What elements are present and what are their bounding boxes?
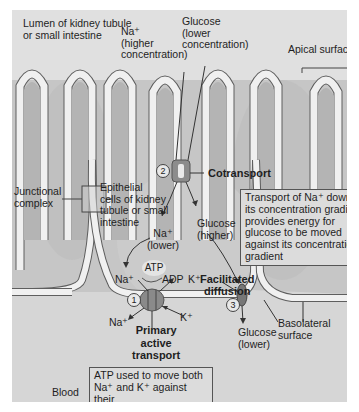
potassium-outside-label: K⁺ [180,312,193,324]
cotransport-note-line: its concentration gradient [245,204,347,216]
junctional-complex-label: Junctional complex [14,186,61,209]
basolateral-line2: surface [278,330,331,342]
glucose-label-line3: concentration) [182,39,249,51]
sodium-lower-label: Na⁺ (lower) [147,228,179,251]
glucose-label-line1: Glucose [182,16,249,28]
sodium-lower-line1: Na⁺ [147,228,179,240]
epithelial-label-line3: tubule or small [100,205,168,217]
glucose-lower-concentration-label: Glucose (lower concentration) [182,16,249,51]
junctional-label-line2: complex [14,198,61,210]
step-2-marker: 2 [156,164,170,178]
sodium-lower-line2: (lower) [147,240,179,252]
epithelial-label-line1: Epithelial [100,182,168,194]
facilitated-diffusion-label: Facilitated diffusion [200,274,254,297]
sodium-inside-label: Na⁺ [115,274,134,286]
sodium-higher-label: Na⁺ (higher concentration) [121,26,188,61]
atp-note-line: Na⁺ and K⁺ against their [94,382,208,402]
adp-label: ADP [162,274,184,286]
lumen-label-line1: Lumen of kidney tubule [23,18,132,30]
primary-line2: active [132,337,180,350]
epithelial-cells-label: Epithelial cells of kidney tubule or sma… [100,182,168,228]
primary-line1: Primary [132,324,180,337]
cotransport-note-box: Transport of Na⁺ down its concentration … [240,189,347,266]
glucose-higher-line1: Glucose [197,218,236,230]
cotransport-label: Cotransport [208,168,271,180]
facilitated-line1: Facilitated [200,274,254,286]
glucose-higher-label: Glucose (higher) [197,218,236,241]
lumen-label-line2: or small intestine [23,30,132,42]
junctional-label-line1: Junctional [14,186,61,198]
glucose-higher-line2: (higher) [197,230,236,242]
glucose-lower-line1: Glucose [238,327,277,339]
lumen-label: Lumen of kidney tubule or small intestin… [23,18,132,41]
primary-active-transport-label: Primary active transport [132,324,180,362]
glucose-lower-label: Glucose (lower) [238,327,277,350]
blood-label: Blood [52,387,79,399]
sodium-outside-label: Na⁺ [109,317,128,329]
apical-surface-label: Apical surface [288,44,347,56]
basolateral-line1: Basolateral [278,318,331,330]
step-3-marker: 3 [226,298,240,312]
cotransport-note-line: gradient [245,251,347,263]
atp-note-box: ATP used to move both Na⁺ and K⁺ against… [89,367,213,402]
epithelial-transport-diagram: Lumen of kidney tubule or small intestin… [12,10,347,402]
primary-line3: transport [132,349,180,362]
sodium-label-line1: Na⁺ [121,26,188,38]
facilitated-line2: diffusion [200,286,254,298]
glucose-lower-line2: (lower) [238,339,277,351]
step-1-marker: 1 [127,293,141,307]
sodium-label-line3: concentration) [121,49,188,61]
basolateral-surface-label: Basolateral surface [278,318,331,341]
